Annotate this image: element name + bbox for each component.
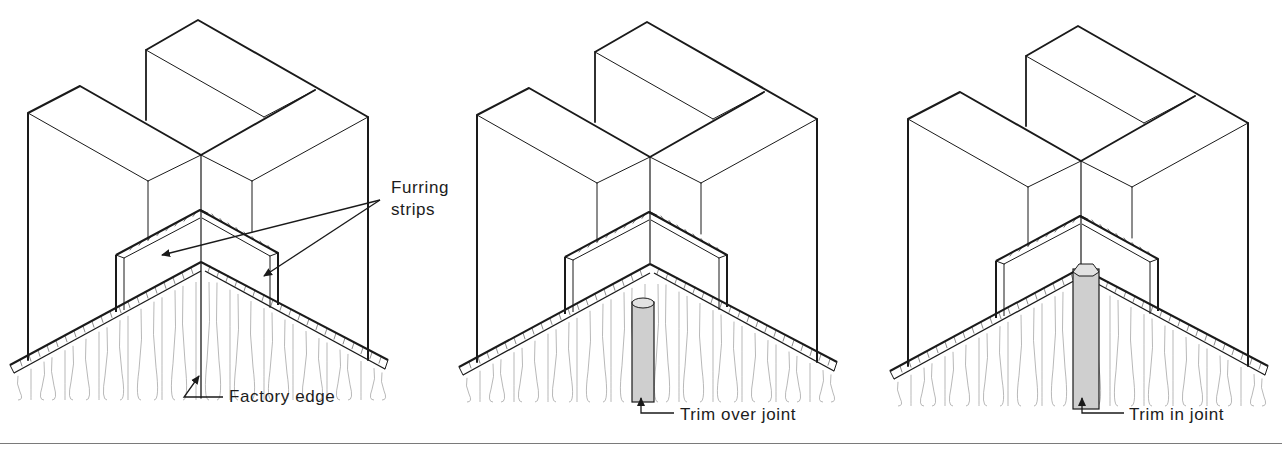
- wall-corner-diagram: [0, 0, 1282, 463]
- figure-bottom-rule: [0, 443, 1282, 444]
- trim-over-joint-label: Trim over joint: [680, 405, 796, 424]
- trim-over-joint-strip: [632, 302, 654, 402]
- furring-strips-label-line1: Furring: [391, 178, 449, 197]
- furring-strips-label-line2: strips: [391, 200, 435, 219]
- factory-edge-label: Factory edge: [229, 387, 335, 406]
- furring-strip-arrow-left: [162, 200, 380, 255]
- furring-strip-arrow-right: [264, 200, 380, 276]
- factory-edge-panel: [10, 20, 388, 400]
- trim-in-joint-label: Trim in joint: [1129, 405, 1224, 424]
- trim-over-joint-panel: [459, 22, 837, 402]
- trim-in-joint-panel: [890, 26, 1268, 409]
- factory-edge-arrow: [184, 376, 223, 397]
- trim-in-joint-strip: [1073, 269, 1099, 409]
